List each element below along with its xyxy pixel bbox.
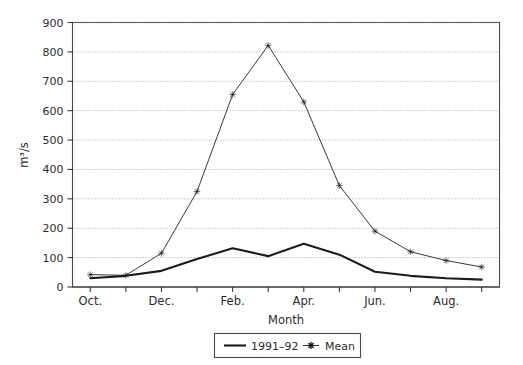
- y-tick-label: 900: [43, 17, 64, 30]
- chart-legend: 1991–92 Mean: [215, 334, 361, 358]
- y-tick-label: 600: [43, 105, 64, 118]
- x-tick-label: Dec.: [148, 294, 174, 308]
- x-tick-label: Aug.: [433, 294, 459, 308]
- y-tick-label: 300: [43, 193, 64, 206]
- y-tick-label: 800: [43, 46, 64, 59]
- data-point-marker: [336, 182, 342, 188]
- series-1991-92: [90, 244, 481, 280]
- y-tick-label: 700: [43, 75, 64, 88]
- x-axis: Oct.Dec.Feb.Apr.Jun.Aug.: [73, 287, 500, 308]
- data-point-marker: [407, 249, 413, 255]
- data-point-marker: [443, 257, 449, 263]
- data-point-marker: [158, 250, 164, 256]
- y-tick-label: 0: [57, 281, 64, 294]
- x-axis-title: Month: [268, 313, 304, 327]
- y-axis: 0100200300400500600700800900: [43, 17, 73, 295]
- x-tick-label: Jun.: [363, 294, 386, 308]
- y-tick-label: 400: [43, 163, 64, 176]
- series-mean-line: [90, 45, 481, 275]
- line-chart: 0100200300400500600700800900 Oct.Dec.Feb…: [0, 0, 523, 365]
- data-point-marker: [194, 188, 200, 194]
- y-tick-label: 200: [43, 222, 64, 235]
- y-tick-label: 100: [43, 252, 64, 265]
- data-point-marker: [301, 99, 307, 105]
- legend-label-mean: Mean: [325, 340, 355, 353]
- plot-frame: [73, 23, 500, 288]
- data-point-marker: [479, 264, 485, 270]
- gridlines: [74, 23, 499, 258]
- x-tick-label: Feb.: [221, 294, 245, 308]
- data-point-marker: [87, 271, 93, 277]
- data-point-marker: [265, 42, 271, 48]
- data-point-marker: [229, 91, 235, 97]
- data-point-marker: [372, 228, 378, 234]
- series-mean: [87, 42, 485, 278]
- x-tick-label: Apr.: [293, 294, 316, 308]
- x-tick-label: Oct.: [79, 294, 103, 308]
- legend-label-1991-92: 1991–92: [251, 340, 299, 353]
- y-tick-label: 500: [43, 134, 64, 147]
- y-axis-title: m³/s: [17, 142, 31, 168]
- series-1991-92-line: [90, 244, 481, 280]
- chart-figure: 0100200300400500600700800900 Oct.Dec.Feb…: [0, 0, 523, 365]
